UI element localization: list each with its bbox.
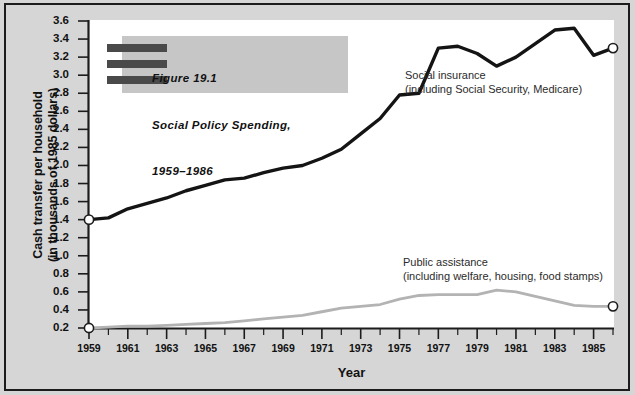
series-line-1: [89, 290, 613, 328]
figure-title-line2: Social Policy Spending,: [152, 118, 291, 134]
y-tick-label: 0.4: [35, 303, 69, 315]
y-tick-label: 1.0: [35, 249, 69, 261]
endpoint-marker: [84, 215, 93, 224]
x-tick-label: 1963: [147, 342, 187, 354]
x-tick-label: 1979: [457, 342, 497, 354]
x-tick-label: 1977: [418, 342, 458, 354]
endpoint-marker: [608, 43, 617, 52]
x-tick-label: 1981: [496, 342, 536, 354]
y-tick-label: 3.6: [35, 14, 69, 26]
x-axis-title: Year: [89, 365, 614, 380]
series-label-social-insurance: Social insurance (including Social Secur…: [405, 68, 582, 96]
x-tick-label: 1985: [574, 342, 614, 354]
figure-container: Cash transfer per household (in thousand…: [0, 0, 635, 395]
figure-title-text: Figure 19.1 Social Policy Spending, 1959…: [152, 40, 291, 211]
y-tick-label: 2.8: [35, 86, 69, 98]
x-tick-label: 1983: [535, 342, 575, 354]
y-tick-label: 0.6: [35, 285, 69, 297]
y-tick-label: 2.0: [35, 158, 69, 170]
y-tick-label: 0.8: [35, 267, 69, 279]
endpoint-marker: [608, 302, 617, 311]
y-tick-label: 3.4: [35, 32, 69, 44]
y-tick-label: 3.0: [35, 68, 69, 80]
x-tick-label: 1973: [341, 342, 381, 354]
x-tick-label: 1975: [380, 342, 420, 354]
y-tick-label: 1.2: [35, 231, 69, 243]
x-axis-ticks: [89, 329, 613, 339]
figure-title-line3: 1959–1986: [152, 164, 291, 180]
x-tick-label: 1969: [263, 342, 303, 354]
y-tick-label: 1.6: [35, 195, 69, 207]
series-label-public-assistance: Public assistance (including welfare, ho…: [403, 255, 603, 283]
y-axis-ticks: [78, 21, 89, 328]
y-tick-label: 1.8: [35, 177, 69, 189]
y-tick-label: 0.2: [35, 321, 69, 333]
x-tick-label: 1971: [302, 342, 342, 354]
endpoint-marker: [84, 323, 93, 332]
x-tick-label: 1959: [69, 342, 109, 354]
x-tick-label: 1965: [185, 342, 225, 354]
x-tick-label: 1967: [224, 342, 264, 354]
y-tick-label: 2.2: [35, 140, 69, 152]
y-tick-label: 1.4: [35, 213, 69, 225]
figure-title-line1: Figure 19.1: [152, 71, 291, 87]
y-tick-label: 2.6: [35, 104, 69, 116]
x-tick-label: 1961: [108, 342, 148, 354]
y-tick-label: 2.4: [35, 122, 69, 134]
y-tick-label: 3.2: [35, 50, 69, 62]
